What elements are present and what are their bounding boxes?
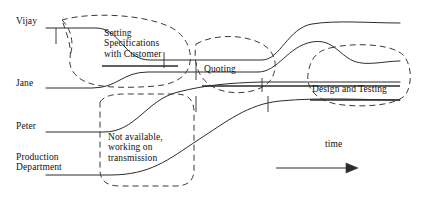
activity-label-design-and-testing: Design and Testing xyxy=(312,84,387,94)
group-design-testing xyxy=(308,45,411,106)
time-axis-arrowhead xyxy=(346,163,358,173)
actor-label-production-department: Production Department xyxy=(16,152,62,173)
activity-label-setting-specifications: Setting Specifications with Customer xyxy=(104,28,162,59)
diagram-canvas: Vijay Jane Peter Production Department S… xyxy=(0,0,421,200)
lifeline-ticks xyxy=(56,28,268,112)
actor-label-vijay: Vijay xyxy=(16,16,37,26)
activity-label-not-available: Not available, working on transmission xyxy=(108,132,163,163)
activity-label-quoting: Quoting xyxy=(204,64,236,74)
actor-trajectories xyxy=(46,22,400,175)
trajectory-vijay xyxy=(46,22,400,60)
time-axis-label: time xyxy=(325,139,342,149)
actor-label-peter: Peter xyxy=(16,121,36,131)
actor-label-jane: Jane xyxy=(16,78,33,88)
swimlane-svg xyxy=(0,0,421,200)
activity-underlines xyxy=(102,66,400,100)
time-axis xyxy=(276,163,358,173)
